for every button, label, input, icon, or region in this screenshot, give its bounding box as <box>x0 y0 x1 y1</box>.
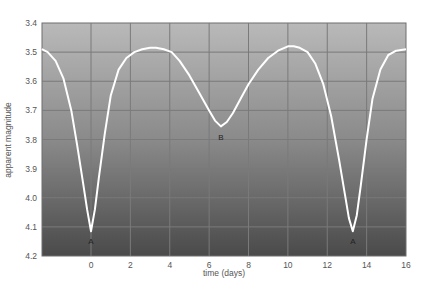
x-tick-label: 8 <box>246 260 251 270</box>
y-tick-label: 3.6 <box>25 76 37 86</box>
x-tick-label: 4 <box>167 260 172 270</box>
minimum-label-a: A <box>88 237 94 246</box>
x-tick-label: 2 <box>128 260 133 270</box>
light-curve-chart: ABA 3.43.53.63.73.83.94.04.14.2 02468101… <box>0 0 426 291</box>
x-tick-label: 0 <box>89 260 94 270</box>
y-axis-label: apparent magnitude <box>3 102 13 178</box>
x-tick-label: 14 <box>362 260 372 270</box>
x-axis-label: time (days) <box>203 268 245 278</box>
y-tick-label: 3.4 <box>25 18 37 28</box>
y-tick-label: 3.5 <box>25 47 37 57</box>
x-axis-ticks: 0246810121416 <box>89 260 411 270</box>
x-tick-label: 16 <box>401 260 411 270</box>
y-tick-label: 3.7 <box>25 105 37 115</box>
minimum-label-b: B <box>218 133 223 142</box>
y-tick-label: 3.9 <box>25 164 37 174</box>
x-tick-label: 10 <box>283 260 293 270</box>
y-tick-label: 4.1 <box>25 222 37 232</box>
y-axis-ticks: 3.43.53.63.73.83.94.04.14.2 <box>25 18 37 261</box>
y-tick-label: 3.8 <box>25 135 37 145</box>
y-tick-label: 4.0 <box>25 193 37 203</box>
y-tick-label: 4.2 <box>25 251 37 261</box>
x-tick-label: 12 <box>323 260 333 270</box>
minimum-label-a: A <box>350 237 356 246</box>
